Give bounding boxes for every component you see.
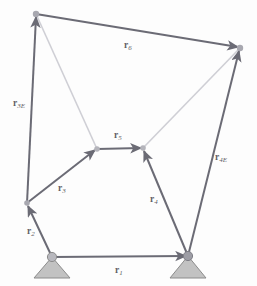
vector-label-r5-sub: 5 [118,134,122,142]
vector-label-r4: r4 [150,195,158,205]
vector-label-r4E-sub: 4E [219,156,227,164]
moving-joints [24,11,243,206]
vector-label-r5: r5 [114,131,122,141]
vector-label-r3E-sub: 3E [17,102,25,110]
vector-label-r1: r1 [115,266,123,276]
vector-r3E [27,17,36,203]
vector-r3 [27,150,95,203]
vector-r5 [97,148,141,149]
vector-label-r1-sub: 1 [119,269,123,277]
vector-label-r3E: r3E [13,99,25,109]
figure-canvas: r1 r2 r3 r4 r5 r6 r3E r4E [0,0,257,286]
vector-label-r6: r6 [124,41,132,51]
vector-label-r3: r3 [58,184,66,194]
vector-label-r4E: r4E [215,153,227,163]
vector-r6 [36,14,238,47]
vector-label-r2: r2 [27,227,35,237]
pivot-joint-right [183,251,192,260]
joint-node-c [140,145,146,151]
vector-label-r4-sub: 4 [154,198,158,206]
vector-arrows [27,14,239,257]
guide-line-c-to-top-right [143,48,240,148]
vector-label-r2-sub: 2 [31,230,35,238]
guide-line-b-to-top-left [36,14,97,149]
vector-r4E [188,51,239,256]
joint-node-a [24,200,30,206]
pivot-joint-left [47,252,56,261]
vector-r1 [52,256,186,257]
joint-node-top-left [33,11,39,17]
joint-node-top-right [237,45,243,51]
joint-node-b [94,146,100,152]
vector-label-r3-sub: 3 [62,187,66,195]
vector-label-r6-sub: 6 [128,44,132,52]
